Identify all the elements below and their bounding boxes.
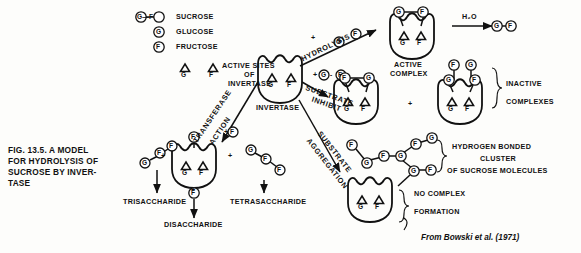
disaccharide-label: DISACCHARIDE <box>164 221 223 229</box>
inactive-a-site-left: G <box>344 105 349 113</box>
inactive-b-site-bound-left: G <box>446 76 451 84</box>
trisaccharide-node-1: F <box>157 149 161 157</box>
legend-label-sucrose: SUCROSE <box>176 13 214 21</box>
hydrolysis-plus-sign: + <box>311 34 316 42</box>
figure-caption-line1: FIG. 13.5. A MODEL <box>8 146 88 156</box>
aggregation-site-left: G <box>358 203 363 211</box>
enzyme-name-label: INVERTASE <box>256 104 299 112</box>
figure-source-attribution: From Bowski et al. (1971) <box>421 233 519 242</box>
legend-label-fructose: FRUCTOSE <box>176 43 218 51</box>
cluster-node-5: G <box>429 134 434 142</box>
legend-fructose-node: F <box>156 43 160 51</box>
transferase-site-right: F <box>199 169 203 177</box>
inactive-b-bound-top-left: F <box>451 61 455 69</box>
active-complex-line2: COMPLEX <box>390 70 428 78</box>
legend-sucrose-glucose-node: G—F <box>137 13 153 21</box>
trisaccharide-node-2: F <box>169 142 173 150</box>
inactive-complexes-plus: + <box>408 100 413 108</box>
diagram-vector-layer <box>0 0 581 253</box>
figure-caption-line4: TASE <box>8 179 30 189</box>
cluster-node-0: F <box>349 141 353 149</box>
transferase-site-left: G <box>182 169 187 177</box>
enzyme-site-right-label: F <box>287 81 291 89</box>
aggregation-site-right: F <box>375 203 379 211</box>
inactive-complexes-line2: COMPLEXES <box>506 98 554 106</box>
tetrasaccharide-label: TETRASACCHARIDE <box>230 198 306 206</box>
inactive-b-bound-top-right: G <box>468 61 473 69</box>
transferase-plus-sign: + <box>224 128 229 136</box>
inhibition-bond-dash: - <box>330 71 332 79</box>
trisaccharide-label: TRISACCHARIDE <box>123 198 186 206</box>
disaccharide-node-0: F <box>191 189 195 197</box>
tetrasaccharide-node-1: F <box>263 155 267 163</box>
hydrolysis-substrate-f: F <box>353 30 357 38</box>
inactive-b-site-left: G <box>448 105 453 113</box>
inactive-b-site-right: F <box>465 105 469 113</box>
cluster-node-7: F <box>428 166 432 174</box>
cluster-line3: OF SUCROSE MOLECULES <box>447 167 548 175</box>
tetrasaccharide-node-0: G <box>248 146 253 154</box>
cluster-node-1: G <box>364 159 369 167</box>
cluster-node-2: F <box>381 152 385 160</box>
legend-site-g-label: G <box>181 71 186 79</box>
cluster-line2: CLUSTER <box>480 155 516 163</box>
transferase-plus-left: + <box>161 152 166 160</box>
legend-site-f-label: F <box>209 71 213 79</box>
water-reagent-label: H₂O <box>462 13 477 21</box>
inactive-a-site-right: F <box>361 105 365 113</box>
cluster-node-6: G <box>411 167 416 175</box>
inhibition-plus-sign: + <box>313 71 318 79</box>
product-fructose-label: F <box>508 22 512 30</box>
legend-label-glucose: GLUCOSE <box>176 28 214 36</box>
figure-caption-line2: FOR HYDROLYSIS OF <box>8 157 98 167</box>
cluster-node-4: F <box>413 140 417 148</box>
cluster-node-3: G <box>398 152 403 160</box>
active-complex-site-right: F <box>417 39 421 47</box>
active-complex-bound-right: F <box>420 8 424 16</box>
enzyme-site-left-label: G <box>268 81 273 89</box>
inactive-a-bound-left: F <box>342 74 346 82</box>
no-complex-line1: NO COMPLEX <box>414 190 465 198</box>
no-complex-line2: FORMATION <box>414 208 460 216</box>
legend-glucose-node: G <box>156 28 161 36</box>
inactive-b-site-bound-right: F <box>472 76 476 84</box>
tetrasaccharide-node-2: F <box>277 166 281 174</box>
legend-active-sites-line3: INVERTASE <box>228 80 271 88</box>
trisaccharide-node-0: G <box>142 159 147 167</box>
figure-caption-line3: SUCROSE BY INVER- <box>8 168 97 178</box>
active-complex-site-left: G <box>400 39 405 47</box>
transferase-bound-middle: F <box>191 133 195 141</box>
inactive-a-bound-right: G <box>366 74 371 82</box>
product-glucose-label: G <box>494 22 499 30</box>
active-complex-bound-left: G <box>396 8 401 16</box>
inhibition-substrate-g: G <box>321 71 326 79</box>
inactive-complexes-line1: INACTIVE <box>506 80 542 88</box>
cluster-line1: HYDROGEN BONDED <box>452 143 531 151</box>
transferase-plus-right: + <box>228 152 233 160</box>
hydrolysis-substrate-g: G <box>336 38 341 46</box>
figure-canvas: G—F SUCROSE G GLUCOSE F FRUCTOSE G F ACT… <box>0 0 581 253</box>
transferase-reactant-f: F <box>230 128 234 136</box>
